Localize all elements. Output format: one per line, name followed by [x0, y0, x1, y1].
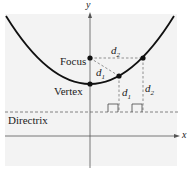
- vertex-label: Vertex: [54, 86, 83, 97]
- vertex-point: [87, 81, 92, 86]
- y-axis-arrow-icon: [88, 12, 92, 18]
- directrix-label: Directrix: [8, 115, 48, 126]
- d1-diagonal-label: d1: [96, 67, 105, 81]
- right-angle-marker-2: [132, 104, 142, 112]
- x-axis-label: x: [182, 130, 186, 140]
- d2-vertical-label: d2: [145, 83, 154, 97]
- focus-label: Focus: [60, 56, 86, 67]
- d2-horizontal-label: d2: [111, 45, 120, 59]
- d1-vertical-label: d1: [122, 87, 131, 101]
- diagram-canvas: [0, 0, 192, 175]
- x-axis-arrow-icon: [174, 134, 180, 138]
- curve-point-2: [140, 55, 145, 60]
- focus-point: [87, 55, 92, 60]
- parabola-diagram: y x Focus Vertex Directrix d2 d1 d1 d2: [0, 0, 192, 175]
- y-axis-label: y: [86, 0, 90, 10]
- curve-point-1: [116, 73, 121, 78]
- right-angle-marker-1: [108, 104, 118, 112]
